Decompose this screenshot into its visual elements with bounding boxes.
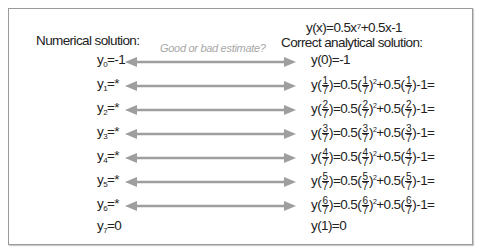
- analytical-value-6: y(67)=0.5(67)2+0.5(67)-1=: [311, 192, 434, 215]
- numerical-value-y6: y6=*: [97, 196, 119, 213]
- double-arrow-icon: [125, 57, 296, 67]
- double-arrow-icon: [125, 105, 296, 115]
- fraction: 17: [322, 76, 329, 95]
- double-arrow-icon: [125, 153, 296, 163]
- numerical-value-y2: y2=*: [97, 100, 119, 117]
- analytical-value-5: y(57)=0.5(57)2+0.5(57)-1=: [311, 168, 434, 191]
- analytical-value-1: y(17)=0.5(17)2+0.5(17)-1=: [311, 72, 434, 95]
- fraction: 47: [322, 148, 329, 167]
- double-arrow-icon: [125, 129, 296, 139]
- numerical-value-y0: y0=-1: [97, 52, 125, 69]
- analytical-value-3: y(37)=0.5(37)2+0.5(37)-1=: [311, 120, 434, 143]
- fraction: 27: [362, 100, 369, 119]
- analytical-value-4: y(47)=0.5(47)2+0.5(47)-1=: [311, 144, 434, 167]
- fraction: 37: [405, 124, 412, 143]
- fraction: 47: [362, 148, 369, 167]
- double-arrow-icon: [125, 81, 296, 91]
- numerical-value-y1: y1=*: [97, 76, 119, 93]
- fraction: 37: [322, 124, 329, 143]
- fraction: 67: [405, 196, 412, 215]
- analytical-value-1: y(1)=0: [311, 218, 346, 233]
- numerical-value-y5: y5=*: [97, 172, 119, 189]
- fraction: 27: [405, 100, 412, 119]
- fraction: 67: [322, 196, 329, 215]
- analytical-solution-title: Correct analytical solution:: [281, 35, 423, 50]
- fraction: 27: [322, 100, 329, 119]
- fraction: 67: [362, 196, 369, 215]
- analytical-value-0: y(0)=-1: [311, 52, 350, 67]
- equation: y(x)=0.5x⁷+0.5x-1: [306, 20, 402, 35]
- fraction: 57: [362, 172, 369, 191]
- fraction: 47: [405, 148, 412, 167]
- numerical-solution-title: Numerical solution:: [36, 33, 139, 48]
- estimate-hint: Good or bad estimate?: [160, 42, 266, 54]
- numerical-value-y7: y7=0: [97, 218, 121, 235]
- fraction: 57: [405, 172, 412, 191]
- fraction: 17: [405, 76, 412, 95]
- double-arrow-icon: [125, 177, 296, 187]
- double-arrow-icon: [125, 201, 296, 211]
- numerical-value-y3: y3=*: [97, 124, 119, 141]
- numerical-value-y4: y4=*: [97, 148, 119, 165]
- fraction: 37: [362, 124, 369, 143]
- fraction: 57: [322, 172, 329, 191]
- fraction: 17: [362, 76, 369, 95]
- analytical-value-2: y(27)=0.5(27)2+0.5(27)-1=: [311, 96, 434, 119]
